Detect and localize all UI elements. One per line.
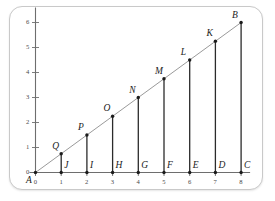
- geometry-diagram: [0, 0, 275, 201]
- point-C: [239, 171, 242, 174]
- label-N: N: [129, 86, 135, 96]
- label-P: P: [78, 123, 84, 133]
- point-H: [111, 171, 114, 174]
- label-K: K: [206, 29, 212, 39]
- point-O: [111, 115, 114, 118]
- label-I: I: [90, 161, 93, 171]
- point-K: [214, 40, 217, 43]
- x-tick-label-7: 7: [214, 179, 217, 186]
- label-H: H: [116, 161, 123, 171]
- label-F: F: [167, 161, 173, 171]
- label-G: G: [141, 161, 148, 171]
- y-tick-label-2: 2: [26, 119, 29, 126]
- x-tick-label-6: 6: [188, 179, 191, 186]
- point-J: [60, 171, 63, 174]
- x-tick-label-0: 0: [34, 179, 37, 186]
- label-B: B: [232, 11, 238, 21]
- point-P: [85, 133, 88, 136]
- vertical-segments: [61, 23, 241, 173]
- axes: [30, 8, 251, 173]
- point-F: [162, 171, 165, 174]
- point-M: [162, 77, 165, 80]
- label-A: A: [26, 176, 32, 186]
- point-N: [137, 96, 140, 99]
- y-tick-label-1: 1: [26, 144, 29, 151]
- x-tick-label-4: 4: [137, 179, 140, 186]
- y-tick-label-5: 5: [26, 44, 29, 51]
- point-B: [239, 21, 242, 24]
- point-A: [34, 171, 37, 174]
- label-L: L: [181, 48, 186, 58]
- label-Q: Q: [52, 142, 59, 152]
- x-tick-label-1: 1: [59, 179, 62, 186]
- y-tick-label-3: 3: [26, 94, 29, 101]
- point-Q: [60, 152, 63, 155]
- y-tick-label-4: 4: [26, 69, 29, 76]
- label-C: C: [244, 161, 250, 171]
- label-O: O: [104, 104, 111, 114]
- label-J: J: [64, 161, 68, 171]
- label-E: E: [193, 161, 199, 171]
- y-tick-label-6: 6: [26, 19, 29, 26]
- x-tick-label-5: 5: [162, 179, 165, 186]
- point-L: [188, 58, 191, 61]
- x-tick-label-3: 3: [111, 179, 114, 186]
- label-D: D: [218, 161, 225, 171]
- x-tick-label-2: 2: [85, 179, 88, 186]
- point-G: [137, 171, 140, 174]
- label-M: M: [155, 67, 163, 77]
- point-I: [85, 171, 88, 174]
- point-E: [188, 171, 191, 174]
- point-D: [214, 171, 217, 174]
- x-tick-label-8: 8: [239, 179, 242, 186]
